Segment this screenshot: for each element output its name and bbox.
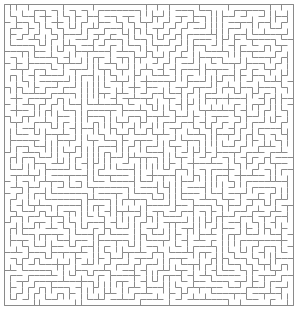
maze-canvas — [0, 0, 301, 312]
maze-figure — [0, 0, 301, 312]
